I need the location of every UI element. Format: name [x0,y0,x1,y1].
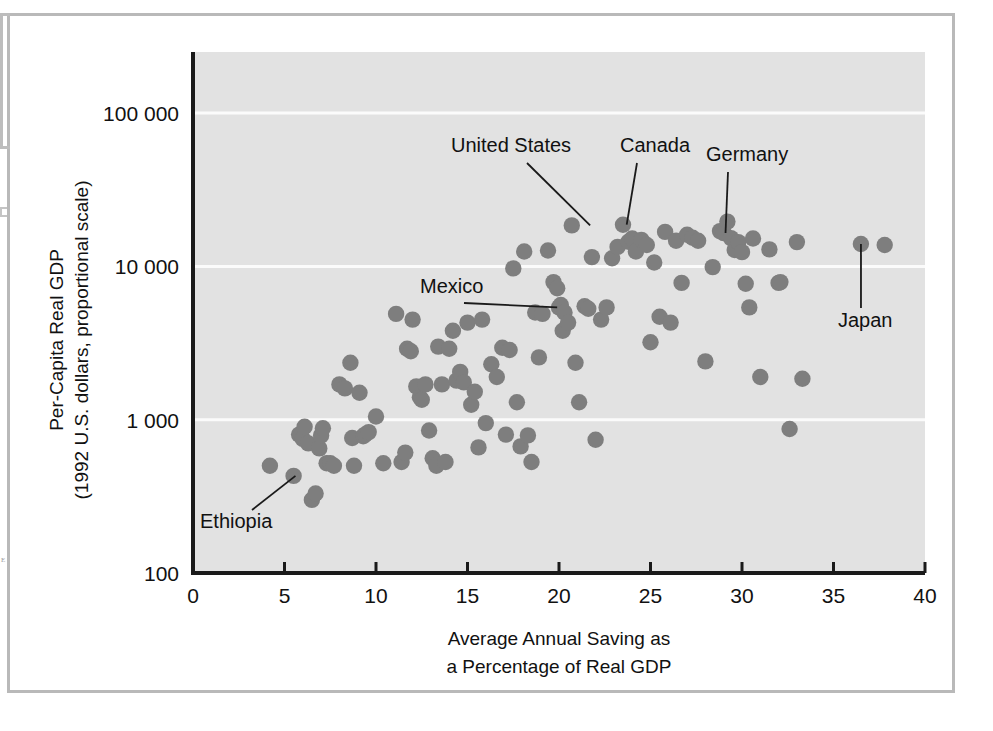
data-point [662,314,678,330]
data-point [388,306,404,322]
data-point [584,249,600,265]
data-point [498,426,514,442]
annotation-label: Mexico [420,275,483,297]
data-point [745,230,761,246]
data-point [587,432,603,448]
data-point [520,427,536,443]
data-point [516,243,532,259]
data-point [642,334,658,350]
x-tick-label: 25 [639,584,662,607]
data-point [474,311,490,327]
data-point [615,217,631,233]
annotation-label: Germany [706,143,788,165]
data-point [470,439,486,455]
data-point [690,233,706,249]
data-point [598,299,614,315]
data-point [307,485,323,501]
annotation-label: United States [451,134,571,156]
data-point [534,306,550,322]
x-tick-label: 10 [364,584,387,607]
data-point [781,421,797,437]
data-point [375,455,391,471]
data-point [705,259,721,275]
data-point [397,444,413,460]
data-point [761,241,777,257]
x-axis-title-line1: Average Annual Saving as [448,628,671,649]
x-axis-title-line2: a Percentage of Real GDP [447,656,672,677]
x-tick-label: 20 [547,584,570,607]
data-point [434,376,450,392]
data-point [478,415,494,431]
y-tick-label: 1 000 [126,409,179,432]
data-point [417,376,433,392]
data-point [509,394,525,410]
data-point [467,384,483,400]
data-point [403,343,419,359]
data-point [673,275,689,291]
y-axis-title-line1: Per-Capita Real GDP [46,249,67,431]
data-point [368,408,384,424]
data-point [560,314,576,330]
data-point [646,254,662,270]
data-point [567,355,583,371]
data-point [437,454,453,470]
x-tick-label: 15 [456,584,479,607]
y-tick-label: 100 [144,562,179,585]
data-point [639,237,655,253]
y-axis-title-line2: (1992 U.S. dollars, proportional scale) [71,181,92,500]
data-point [877,237,893,253]
data-point [540,242,556,258]
x-tick-label: 40 [913,584,936,607]
data-point [459,314,475,330]
y-axis-ticks: 100 00010 0001 000100 [103,102,179,585]
data-point [404,311,420,327]
annotation-label: Japan [838,309,893,331]
data-point [505,260,521,276]
data-point [571,394,587,410]
y-tick-label: 100 000 [103,102,179,125]
data-point [738,276,754,292]
data-point [752,369,768,385]
y-tick-label: 10 000 [115,255,179,278]
data-point [262,458,278,474]
data-point [794,371,810,387]
data-point [501,342,517,358]
x-tick-label: 35 [822,584,845,607]
data-point [734,244,750,260]
data-point [342,355,358,371]
data-point [337,380,353,396]
data-point [789,234,805,250]
data-point [315,420,331,436]
data-point [697,353,713,369]
data-point [523,454,539,470]
data-point [346,458,362,474]
x-tick-label: 5 [279,584,291,607]
data-point [719,213,735,229]
annotation-label: Ethiopia [200,510,273,532]
data-point [489,369,505,385]
data-point [326,458,342,474]
data-point [421,422,437,438]
data-point [351,385,367,401]
data-point [361,424,377,440]
data-point [549,280,565,296]
annotation-label: Canada [620,134,691,156]
scatter-figure: 100 00010 0001 000100 0510152025303540 U… [0,0,993,731]
data-point [564,217,580,233]
data-point [414,392,430,408]
data-point [445,323,461,339]
x-tick-label: 0 [187,584,199,607]
data-point [531,349,547,365]
x-tick-label: 30 [730,584,753,607]
data-point [741,299,757,315]
scatter-plot: 100 00010 0001 000100 0510152025303540 U… [0,0,993,731]
data-point [441,341,457,357]
data-point [296,419,312,435]
data-point [580,301,596,317]
data-point [772,274,788,290]
